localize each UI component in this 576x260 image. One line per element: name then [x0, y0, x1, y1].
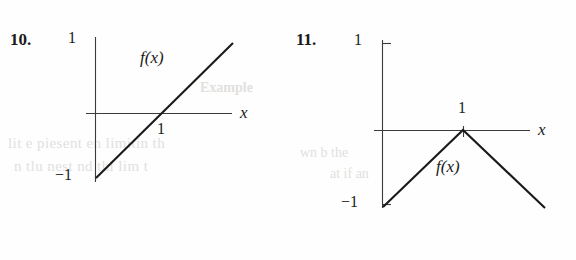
figure-11-plot	[288, 0, 576, 260]
figure-10: 10. 1 −1 1 f(x) x	[0, 0, 288, 260]
y-axis-label-one: 1	[354, 31, 362, 49]
x-intercept-label-one: 1	[157, 120, 165, 138]
y-axis-label-minus-one: −1	[55, 166, 72, 184]
figure-10-plot	[0, 0, 288, 260]
function-curve	[96, 43, 233, 178]
figure-page: lit e piesent en limitin th n tlu nest n…	[0, 0, 576, 260]
y-axis-label-one: 1	[68, 29, 76, 47]
y-axis-label-minus-one: −1	[341, 193, 358, 211]
x-axis-label: x	[538, 120, 546, 140]
function-label: f(x)	[140, 48, 164, 68]
x-axis-label: x	[240, 103, 248, 123]
function-curve	[383, 130, 545, 208]
peak-label-one: 1	[458, 99, 466, 117]
figure-11: 11. 1 −1 1 f(x) x	[288, 0, 576, 260]
function-label: f(x)	[436, 157, 460, 177]
